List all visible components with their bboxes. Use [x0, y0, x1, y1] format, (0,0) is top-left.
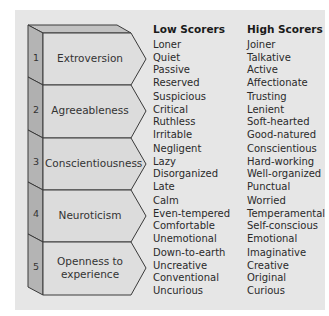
high-word: Worried	[247, 195, 325, 208]
high-word: Creative	[247, 260, 306, 273]
low-word: Passive	[153, 64, 200, 77]
trait-number-1: 1	[29, 52, 43, 63]
low-word: Conventional	[153, 272, 225, 285]
high-word: Talkative	[247, 52, 308, 65]
trait-name-extroversion: Extroversion	[45, 52, 135, 65]
high-word: Joiner	[247, 39, 308, 52]
high-word: Affectionate	[247, 77, 308, 90]
box-top-face	[28, 25, 131, 33]
high-word: Emotional	[247, 233, 325, 246]
high-word: Trusting	[247, 91, 316, 104]
high-word: Original	[247, 272, 306, 285]
high-scorers-list-1: Joiner Talkative Active Affectionate	[247, 39, 308, 89]
low-word: Negligent	[153, 143, 218, 156]
low-word: Comfortable	[153, 220, 230, 233]
low-word: Quiet	[153, 52, 200, 65]
low-word: Down-to-earth	[153, 247, 225, 260]
high-word: Active	[247, 64, 308, 77]
high-word: Lenient	[247, 104, 316, 117]
low-word: Loner	[153, 39, 200, 52]
low-scorers-list-3: Negligent Lazy Disorganized Late	[153, 143, 218, 193]
low-word: Even-tempered	[153, 208, 230, 221]
low-word: Irritable	[153, 129, 206, 142]
trait-name-openness-line1: Openness to	[45, 255, 135, 268]
high-scorers-header: High Scorers	[247, 23, 323, 35]
trait-name-openness: Openness to experience	[45, 255, 135, 281]
high-word: Good-natured	[247, 129, 316, 142]
trait-number-5: 5	[29, 261, 43, 272]
trait-name-conscientiousness: Conscientiousness	[45, 157, 135, 170]
low-word: Unemotional	[153, 233, 230, 246]
low-word: Critical	[153, 104, 206, 117]
high-word: Imaginative	[247, 247, 306, 260]
low-word: Late	[153, 181, 218, 194]
high-word: Curious	[247, 285, 306, 298]
low-scorers-list-5: Down-to-earth Uncreative Conventional Un…	[153, 247, 225, 297]
trait-number-3: 3	[29, 156, 43, 167]
trait-name-agreeableness: Agreeableness	[45, 104, 135, 117]
high-word: Conscientious	[247, 143, 321, 156]
high-word: Temperamental	[247, 208, 325, 221]
low-word: Uncreative	[153, 260, 225, 273]
high-word: Well-organized	[247, 168, 321, 181]
high-word: Self-conscious	[247, 220, 325, 233]
low-scorers-list-2: Suspicious Critical Ruthless Irritable	[153, 91, 206, 141]
high-word: Hard-working	[247, 156, 321, 169]
high-scorers-list-4: Worried Temperamental Self-conscious Emo…	[247, 195, 325, 245]
low-word: Suspicious	[153, 91, 206, 104]
high-scorers-list-3: Conscientious Hard-working Well-organize…	[247, 143, 321, 193]
high-scorers-list-2: Trusting Lenient Soft-hearted Good-natur…	[247, 91, 316, 141]
high-word: Punctual	[247, 181, 321, 194]
trait-name-neuroticism: Neuroticism	[45, 209, 135, 222]
low-word: Disorganized	[153, 168, 218, 181]
low-scorers-list-1: Loner Quiet Passive Reserved	[153, 39, 200, 89]
trait-number-4: 4	[29, 208, 43, 219]
high-word: Soft-hearted	[247, 116, 316, 129]
low-word: Calm	[153, 195, 230, 208]
low-word: Reserved	[153, 77, 200, 90]
low-word: Ruthless	[153, 116, 206, 129]
high-scorers-list-5: Imaginative Creative Original Curious	[247, 247, 306, 297]
low-word: Lazy	[153, 156, 218, 169]
low-scorers-header: Low Scorers	[153, 23, 225, 35]
trait-number-2: 2	[29, 104, 43, 115]
low-word: Uncurious	[153, 285, 225, 298]
low-scorers-list-4: Calm Even-tempered Comfortable Unemotion…	[153, 195, 230, 245]
trait-name-openness-line2: experience	[45, 268, 135, 281]
